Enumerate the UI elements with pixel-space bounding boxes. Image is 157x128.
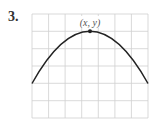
vertex-label: (x, y) (80, 17, 101, 29)
parabola-graph: (x, y) (0, 0, 157, 128)
vertex-point (88, 29, 92, 33)
parabola-curve (32, 31, 148, 83)
